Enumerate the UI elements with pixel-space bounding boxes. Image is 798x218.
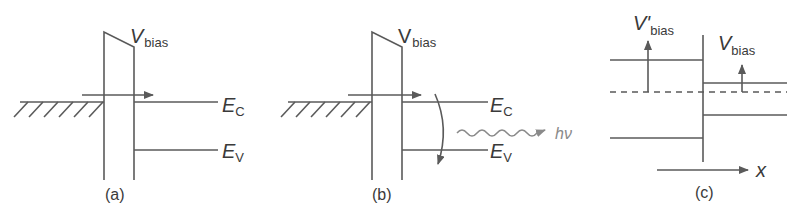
- bias-label: Vbias: [130, 25, 169, 50]
- ev-label: EV: [490, 140, 512, 165]
- ev-label: EV: [222, 140, 244, 165]
- ec-label: EC: [490, 94, 513, 119]
- photon-emission-wave: [457, 130, 545, 136]
- band-diagram-figure: Vbias EC EV (a) Vbias EC EV hν (b): [0, 0, 798, 218]
- panel-c: V'bias Vbias x (c): [610, 12, 787, 201]
- ec-label: EC: [222, 94, 245, 119]
- photon-label: hν: [555, 125, 572, 142]
- bias-label: Vbias: [398, 25, 437, 50]
- metal-hatching: [281, 102, 370, 117]
- x-axis-label: x: [755, 159, 767, 181]
- tunnel-barrier: [104, 32, 134, 180]
- panel-b: Vbias EC EV hν (b): [281, 25, 572, 203]
- right-bias-label: Vbias: [718, 32, 756, 58]
- panel-caption: (c): [695, 184, 714, 201]
- left-bias-label: V'bias: [633, 12, 675, 38]
- panel-caption: (b): [372, 186, 392, 203]
- metal-hatching: [14, 102, 103, 117]
- recombination-arrow: [435, 94, 443, 164]
- tunnel-barrier: [372, 32, 402, 180]
- panel-a: Vbias EC EV (a): [14, 25, 245, 203]
- panel-caption: (a): [105, 186, 125, 203]
